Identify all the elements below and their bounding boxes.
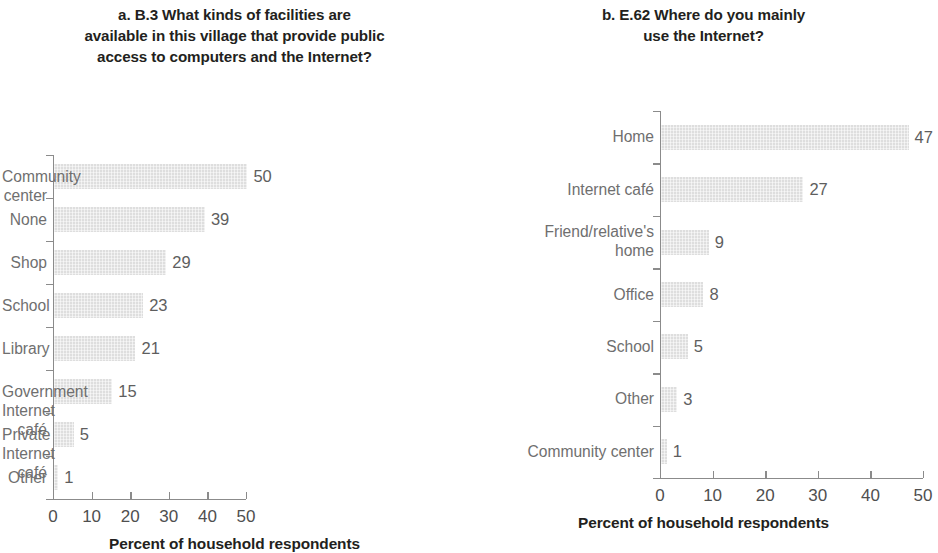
y-axis-tick <box>653 268 660 269</box>
bar <box>54 164 247 189</box>
x-axis-tick-label: 20 <box>745 486 785 506</box>
y-axis-tick <box>653 373 660 374</box>
bar <box>54 207 205 232</box>
y-axis-tick <box>653 111 660 112</box>
category-label: School <box>471 337 654 356</box>
y-axis-tick <box>653 216 660 217</box>
chart-panel-a: a. B.3 What kinds of facilities are avai… <box>0 0 469 495</box>
x-axis-tick-label: 30 <box>798 486 838 506</box>
category-label: School <box>2 296 47 315</box>
bar-value-label: 15 <box>118 379 136 404</box>
x-axis-tick <box>130 492 131 499</box>
y-axis-tick <box>46 327 53 328</box>
bar-value-label: 5 <box>694 334 703 359</box>
panel-a-title: a. B.3 What kinds of facilities are avai… <box>0 0 469 67</box>
category-label: Friend/relative's home <box>471 222 654 260</box>
bar-value-label: 50 <box>253 164 271 189</box>
bar-value-label: 39 <box>211 207 229 232</box>
x-axis-title: Percent of household respondents <box>0 535 469 553</box>
bar <box>54 250 166 275</box>
x-axis-tick <box>169 492 170 499</box>
category-label: Other <box>471 389 654 408</box>
y-axis-tick <box>46 499 53 500</box>
y-axis-tick <box>653 426 660 427</box>
x-axis-tick-label: 40 <box>850 486 890 506</box>
y-axis-tick <box>46 155 53 156</box>
x-axis-tick <box>713 471 714 478</box>
x-axis-tick-label: 20 <box>110 507 150 527</box>
bar <box>54 293 143 318</box>
y-axis-tick <box>653 163 660 164</box>
x-axis-line <box>53 499 246 500</box>
x-axis-line <box>660 478 923 479</box>
x-axis-tick-label: 0 <box>640 486 680 506</box>
bar <box>661 230 708 255</box>
category-label: Other <box>2 468 47 487</box>
x-axis-tick-label: 30 <box>149 507 189 527</box>
bar-value-label: 5 <box>80 422 89 447</box>
bar <box>661 125 908 150</box>
bar <box>661 282 703 307</box>
bar <box>661 387 677 412</box>
x-axis-tick <box>870 471 871 478</box>
x-axis-tick <box>660 471 661 478</box>
bar-value-label: 21 <box>141 336 159 361</box>
y-axis-tick <box>46 370 53 371</box>
category-label: Home <box>471 127 654 146</box>
bar-value-label: 47 <box>915 125 933 150</box>
y-axis-tick <box>653 321 660 322</box>
x-axis-tick <box>92 492 93 499</box>
bar-value-label: 1 <box>673 439 682 464</box>
bar <box>661 177 803 202</box>
category-label: Shop <box>2 253 47 272</box>
bar <box>54 465 58 490</box>
x-axis-tick <box>923 471 924 478</box>
bar-value-label: 8 <box>709 282 718 307</box>
y-axis-tick <box>653 478 660 479</box>
category-label: Internet café <box>471 180 654 199</box>
y-axis-tick <box>46 198 53 199</box>
category-label: Community center <box>2 167 47 205</box>
bar <box>661 439 666 464</box>
bar <box>54 422 73 447</box>
panel-b-title: b. E.62 Where do you mainly use the Inte… <box>469 0 938 46</box>
bar-value-label: 23 <box>149 293 167 318</box>
bar <box>661 334 687 359</box>
bar-value-label: 9 <box>715 230 724 255</box>
category-label: Community center <box>471 442 654 461</box>
x-axis-tick-label: 10 <box>693 486 733 506</box>
x-axis-tick-label: 10 <box>72 507 112 527</box>
x-axis-tick <box>818 471 819 478</box>
bar-value-label: 29 <box>172 250 190 275</box>
x-axis-tick <box>246 492 247 499</box>
x-axis-tick <box>53 492 54 499</box>
bar-value-label: 3 <box>683 387 692 412</box>
category-label: Library <box>2 339 47 358</box>
bar <box>54 336 135 361</box>
category-label: None <box>2 210 47 229</box>
x-axis-tick-label: 50 <box>903 486 938 506</box>
x-axis-tick-label: 0 <box>33 507 73 527</box>
x-axis-tick-label: 40 <box>187 507 227 527</box>
x-axis-tick-label: 50 <box>226 507 266 527</box>
x-axis-tick <box>765 471 766 478</box>
y-axis-tick <box>46 284 53 285</box>
x-axis-title: Percent of household respondents <box>469 514 938 532</box>
bar-value-label: 1 <box>64 465 73 490</box>
category-label: Office <box>471 285 654 304</box>
bar-value-label: 27 <box>809 177 827 202</box>
y-axis-tick <box>46 241 53 242</box>
x-axis-tick <box>207 492 208 499</box>
chart-panel-b: b. E.62 Where do you mainly use the Inte… <box>469 0 938 495</box>
